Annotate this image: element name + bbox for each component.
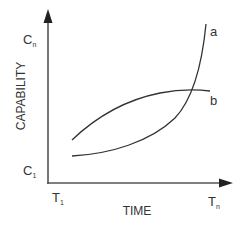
y-max-label: Cn [23, 32, 36, 48]
x-max-label: Tn [208, 194, 220, 210]
y-axis [44, 9, 53, 184]
curve-b-label: b [210, 93, 217, 108]
x-axis-title: TIME [123, 204, 152, 218]
x-axis-arrow-icon [219, 179, 233, 188]
capability-time-chart: a b Cn C1 T1 Tn TIME CAPABILITY [0, 0, 245, 226]
y-axis-title: CAPABILITY [14, 62, 28, 130]
x-axis [47, 179, 233, 188]
y-min-label: C1 [23, 163, 36, 179]
x-min-label: T1 [52, 190, 64, 206]
curve-a-label: a [210, 24, 218, 39]
y-axis-arrow-icon [44, 9, 53, 23]
